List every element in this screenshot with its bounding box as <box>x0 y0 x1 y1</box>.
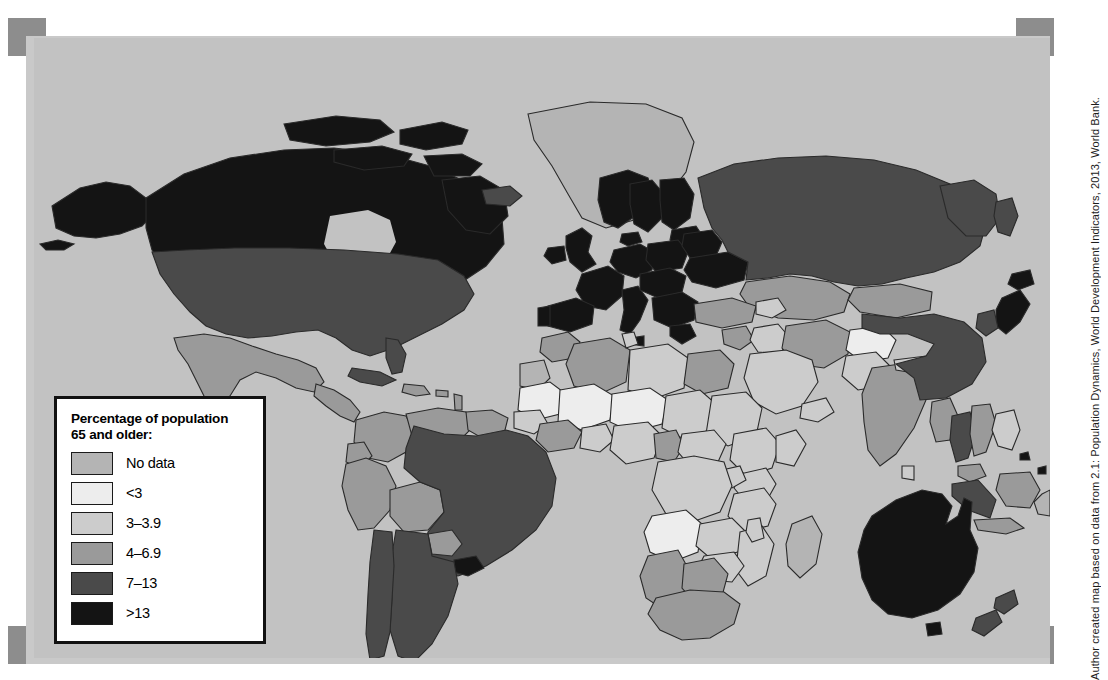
source-caption: Author created map based on data from 2.… <box>1084 0 1106 680</box>
legend-item-no-data[interactable]: No data <box>71 452 249 475</box>
legend-swatch-gt13 <box>71 602 113 625</box>
region-egypt <box>684 350 734 394</box>
legend-label-7-13: 7–13 <box>126 575 157 591</box>
world-map[interactable]: .nd{fill:#b4b4b4;stroke:#2a2a2a;stroke-w… <box>34 38 1050 658</box>
region-pacific-island-1 <box>1020 452 1030 460</box>
legend-title: Percentage of population 65 and older: <box>71 411 249 443</box>
legend-swatch-7-13 <box>71 572 113 595</box>
legend-label-no-data: No data <box>126 455 175 471</box>
region-pacific-island-2 <box>1038 466 1046 474</box>
map-legend: Percentage of population 65 and older: N… <box>54 396 266 644</box>
legend-swatch-lt3 <box>71 482 113 505</box>
legend-item-7-13[interactable]: 7–13 <box>71 572 249 595</box>
legend-label-4-69: 4–6.9 <box>126 545 161 561</box>
map-mat: .nd{fill:#b4b4b4;stroke:#2a2a2a;stroke-w… <box>26 36 1050 664</box>
legend-item-lt3[interactable]: <3 <box>71 482 249 505</box>
region-portugal <box>538 306 550 326</box>
legend-swatch-3-39 <box>71 512 113 535</box>
region-tasmania <box>926 622 942 636</box>
legend-item-gt13[interactable]: >13 <box>71 602 249 625</box>
source-caption-text: Author created map based on data from 2.… <box>1089 93 1101 680</box>
region-sri-lanka <box>902 466 914 480</box>
figure-root: .nd{fill:#b4b4b4;stroke:#2a2a2a;stroke-w… <box>0 0 1108 680</box>
legend-label-gt13: >13 <box>126 605 150 621</box>
legend-label-3-39: 3–3.9 <box>126 515 161 531</box>
legend-item-4-69[interactable]: 4–6.9 <box>71 542 249 565</box>
legend-item-3-39[interactable]: 3–3.9 <box>71 512 249 535</box>
region-puerto-rico <box>436 390 448 397</box>
legend-swatch-4-69 <box>71 542 113 565</box>
legend-label-lt3: <3 <box>126 485 142 501</box>
region-lesser-antilles <box>454 394 462 410</box>
region-turkey <box>694 298 756 328</box>
legend-swatch-no-data <box>71 452 113 475</box>
